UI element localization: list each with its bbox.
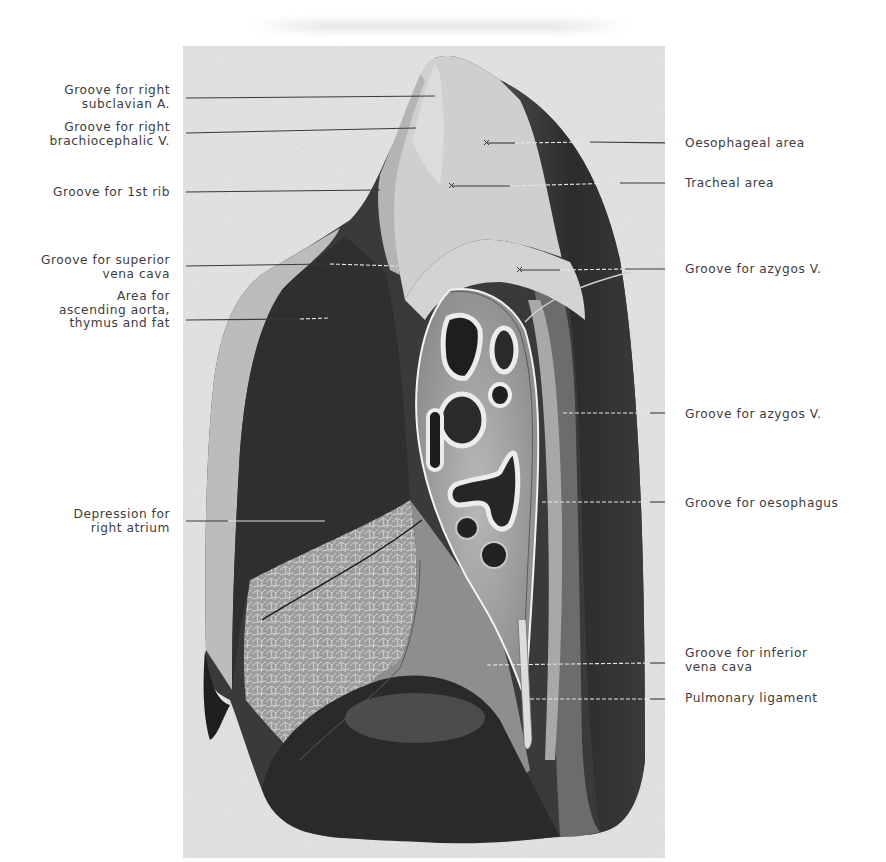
- label-depression-right-atrium: Depression for right atrium: [74, 508, 170, 535]
- label-tracheal-area: Tracheal area: [685, 177, 774, 191]
- label-line: subclavian A.: [64, 98, 170, 112]
- label-line: Groove for right: [64, 84, 170, 98]
- label-pulmonary-ligament: Pulmonary ligament: [685, 692, 818, 706]
- label-line: Groove for azygos V.: [685, 263, 821, 277]
- label-groove-superior-vena-cava: Groove for superior vena cava: [41, 254, 170, 281]
- label-area-ascending-aorta: Area for ascending aorta, thymus and fat: [59, 290, 170, 331]
- lung-illustration: [183, 46, 665, 858]
- label-line: Groove for superior: [41, 254, 170, 268]
- label-line: ascending aorta,: [59, 304, 170, 318]
- label-line: Groove for azygos V.: [685, 408, 821, 422]
- label-line: Groove for right: [50, 121, 171, 135]
- label-line: vena cava: [685, 661, 808, 675]
- label-line: brachiocephalic V.: [50, 135, 171, 149]
- label-line: thymus and fat: [59, 317, 170, 331]
- label-line: right atrium: [74, 522, 170, 536]
- label-line: Depression for: [74, 508, 170, 522]
- label-line: Area for: [59, 290, 170, 304]
- label-line: vena cava: [41, 268, 170, 282]
- label-line: Groove for oesophagus: [685, 497, 838, 511]
- label-line: Groove for inferior: [685, 647, 808, 661]
- label-groove-first-rib: Groove for 1st rib: [53, 186, 170, 200]
- reverse-page-bleed-through: [250, 20, 630, 32]
- label-groove-azygos-vein-upper: Groove for azygos V.: [685, 263, 821, 277]
- label-oesophageal-area: Oesophageal area: [685, 137, 805, 151]
- label-line: Tracheal area: [685, 177, 774, 191]
- label-groove-azygos-vein-lower: Groove for azygos V.: [685, 408, 821, 422]
- label-groove-right-subclavian-artery: Groove for right subclavian A.: [64, 84, 170, 111]
- label-groove-right-brachiocephalic-vein: Groove for right brachiocephalic V.: [50, 121, 171, 148]
- label-groove-oesophagus: Groove for oesophagus: [685, 497, 838, 511]
- label-line: Pulmonary ligament: [685, 692, 818, 706]
- label-line: Oesophageal area: [685, 137, 805, 151]
- label-groove-inferior-vena-cava: Groove for inferior vena cava: [685, 647, 808, 674]
- label-line: Groove for 1st rib: [53, 186, 170, 200]
